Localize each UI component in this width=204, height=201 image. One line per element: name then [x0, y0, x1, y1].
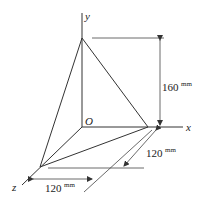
z-axis — [22, 127, 82, 185]
tetrahedron-edges — [40, 38, 148, 167]
height-unit: mm — [181, 80, 192, 88]
height-value: 160 — [162, 81, 179, 93]
z-extent-unit: mm — [64, 181, 75, 189]
x-extent-unit: mm — [165, 146, 176, 154]
origin-label: O — [85, 115, 93, 127]
tetrahedron-diagram: y x z O 160 mm 120 mm 120 mm — [0, 0, 204, 201]
x-axis-label: x — [185, 121, 191, 133]
dimension-160 — [92, 38, 164, 125]
y-axis-label: y — [84, 10, 90, 22]
z-axis-label: z — [11, 181, 17, 193]
z-extent-value: 120 — [45, 182, 62, 194]
x-extent-value: 120 — [146, 147, 163, 159]
